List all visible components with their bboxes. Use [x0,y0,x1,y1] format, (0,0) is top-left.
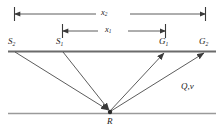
station-label-g1: G1 [159,37,168,47]
downgoing-rays [15,52,109,110]
reflection-point-marker [108,110,112,114]
seismic-ray-diagram: x2 x1 S2 S1 G1 G2 Q,v R [0,0,219,137]
dimension-label-x1: x1 [105,25,111,35]
station-label-s2: S2 [8,37,15,47]
dimension-inner-x1 [63,24,166,38]
dimension-label-x2: x2 [101,8,107,18]
station-label-s1-sub: 1 [61,41,64,47]
reflection-point-label-text: R [107,116,113,126]
station-label-s2-sub: 2 [13,41,16,47]
medium-property-label-text: Q,v [181,81,194,91]
station-label-g1-sub: 1 [166,41,169,47]
dimension-label-x1-sub: 1 [109,28,112,34]
medium-property-label: Q,v [181,82,194,91]
dimension-outer-x2 [15,7,206,21]
ray-s1-to-r [63,52,109,110]
ray-s2-to-r [15,52,108,110]
ray-r-to-g1 [110,53,164,111]
reflection-point-label: R [107,117,113,126]
dimension-label-x2-sub: 2 [105,11,108,17]
station-label-g2: G2 [199,37,208,47]
station-label-g2-sub: 2 [206,41,209,47]
station-label-s1: S1 [56,37,63,47]
